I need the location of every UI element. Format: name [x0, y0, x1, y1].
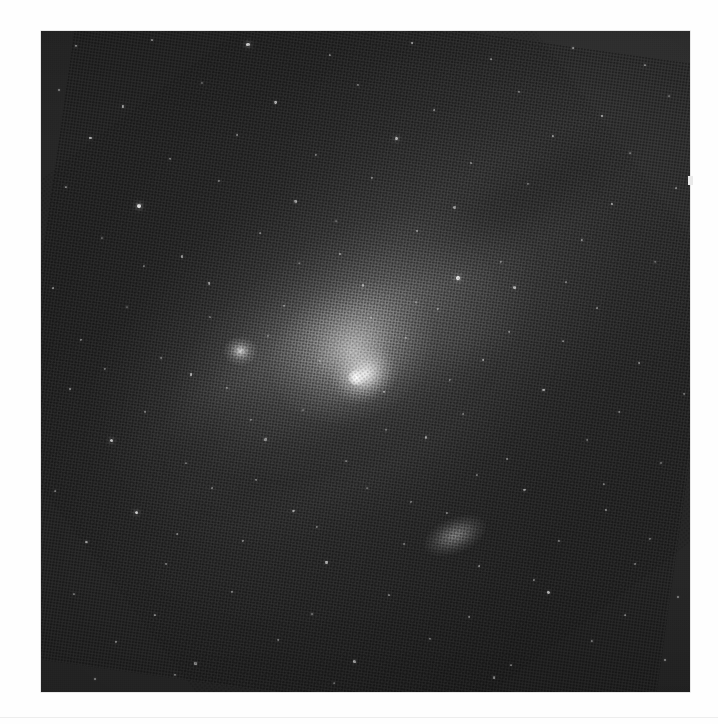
page-rule-line — [0, 717, 718, 718]
page-background — [0, 0, 718, 724]
plate-caption — [0, 0, 1, 1]
astrophotograph-plate — [41, 31, 690, 692]
scan-grain-overlay — [41, 31, 690, 692]
scan-artifact-speck — [688, 176, 693, 185]
